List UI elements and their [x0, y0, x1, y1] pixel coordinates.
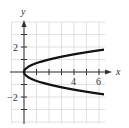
y-tick-label-2: 2 [13, 42, 18, 53]
x-axis-label: x [115, 66, 121, 77]
x-axis-arrow-icon [105, 70, 112, 75]
y-axis-arrow-icon [22, 20, 27, 27]
y-axis-label: y [20, 6, 26, 17]
x-tick-label-4: 4 [71, 76, 76, 87]
parabola-chart: x y 4 6 2 −2 [0, 0, 129, 128]
grid [12, 22, 106, 123]
x-tick-label-6: 6 [96, 76, 101, 87]
y-tick-label-neg2: −2 [7, 92, 18, 103]
